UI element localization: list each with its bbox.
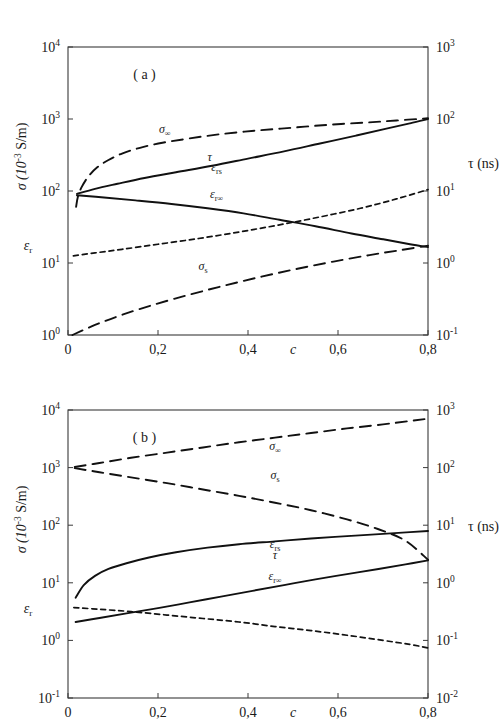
right-axis-tick-label: 10-2 <box>436 689 458 706</box>
curve-label-epsilon-r-infinity: εr∞ <box>210 187 223 203</box>
left-axis-tick-label: 10-1 <box>38 689 60 706</box>
left-tick-exponent: -1 <box>52 689 60 699</box>
x-axis-tick-label: 0,8 <box>419 342 437 357</box>
left-axis-tick-label: 101 <box>41 574 60 591</box>
right-axis-tick-label: 10-1 <box>436 631 458 648</box>
left-tick-exponent: 0 <box>55 326 60 336</box>
left-axis-tick-label: 101 <box>41 254 60 271</box>
x-axis-tick-label: 0 <box>65 342 72 357</box>
curve-label-subscript: ∞ <box>165 129 171 138</box>
right-axis-title-tau: τ (ns) <box>468 519 499 535</box>
left-axis-tick-label: 103 <box>41 110 60 127</box>
panel-tag: ( a ) <box>133 67 156 83</box>
sigma-unit: S/m) <box>14 122 30 153</box>
left-tick-exponent: 4 <box>55 401 60 411</box>
right-axis-tick-label: 103 <box>436 401 455 418</box>
right-tick-exponent: 3 <box>450 38 455 48</box>
left-axis-tick-label: 104 <box>41 401 60 418</box>
right-tick-exponent: 2 <box>450 459 455 469</box>
right-axis-tick-label: 102 <box>436 459 455 476</box>
right-tick-exponent: -1 <box>450 326 458 336</box>
right-tick-exponent: 0 <box>450 574 455 584</box>
right-tick-exponent: 3 <box>450 401 455 411</box>
left-tick-exponent: 1 <box>55 254 60 264</box>
x-axis-title: c <box>290 342 297 357</box>
curve-sigma-infinity <box>75 419 428 467</box>
x-axis-tick-label: 0 <box>65 705 72 720</box>
curve-label-subscript: ∞ <box>275 446 281 455</box>
right-axis-tick-label: 101 <box>436 182 455 199</box>
curve-label-epsilon-rs: εrs <box>211 160 222 176</box>
right-tick-exponent: -1 <box>450 631 458 641</box>
left-axis-tick-label: 100 <box>41 631 60 648</box>
sigma-symbol: σ (10 <box>14 524 30 553</box>
curve-label-symbol: τ <box>273 548 278 562</box>
chart-panel-b: 10-110010110210310410-210-11001011021030… <box>0 363 503 726</box>
curve-label-subscript: s <box>276 475 279 484</box>
x-axis-tick-label: 0,8 <box>419 705 437 720</box>
left-axis-title-epsilon: εr <box>24 601 33 618</box>
curve-epsilon-r-infinity <box>76 560 428 622</box>
left-axis-title-sigma: σ (10-3 S/m) <box>13 485 30 553</box>
right-axis-tick-label: 100 <box>436 254 455 271</box>
right-tick-exponent: 2 <box>450 110 455 120</box>
curve-sigma-s <box>73 246 429 335</box>
right-axis-tick-label: 10-1 <box>436 326 458 343</box>
left-axis-tick-label: 100 <box>41 326 60 343</box>
left-axis-tick-label: 102 <box>41 182 60 199</box>
plot-a: 10010110210310410-110010110210300,20,40,… <box>0 0 503 363</box>
left-axis-title-sigma: σ (10-3 S/m) <box>13 122 30 190</box>
figure-container: 10010110210310410-110010110210300,20,40,… <box>0 0 503 726</box>
curve-label-subscript: rs <box>216 167 222 176</box>
curve-label-subscript: r∞ <box>215 194 224 203</box>
left-axis-tick-label: 103 <box>41 459 60 476</box>
curve-label-sigma-infinity: σ∞ <box>159 122 171 138</box>
sigma-unit: S/m) <box>14 485 30 516</box>
panel-tag: ( b ) <box>133 430 157 446</box>
curve-label-tau: τ <box>208 150 213 164</box>
right-tick-exponent: 1 <box>450 182 455 192</box>
curve-label-sigma-s: σs <box>270 468 279 484</box>
curve-epsilon-rs <box>76 531 428 598</box>
x-axis-tick-label: 0,2 <box>149 342 167 357</box>
right-tick-exponent: -2 <box>450 689 458 699</box>
left-tick-exponent: 3 <box>55 110 60 120</box>
right-tick-exponent: 0 <box>450 254 455 264</box>
right-axis-tick-label: 100 <box>436 574 455 591</box>
left-tick-exponent: 1 <box>55 574 60 584</box>
curve-label-symbol: τ <box>208 150 213 164</box>
plot-b: 10-110010110210310410-210-11001011021030… <box>0 363 503 726</box>
x-axis-tick-label: 0,6 <box>329 342 347 357</box>
curve-label-tau: τ <box>273 548 278 562</box>
left-tick-exponent: 0 <box>55 631 60 641</box>
plot-frame <box>68 410 428 698</box>
right-axis-title-tau: τ (ns) <box>468 156 499 172</box>
curve-label-sigma-s: σs <box>198 259 207 275</box>
left-tick-exponent: 2 <box>55 516 60 526</box>
left-tick-exponent: 2 <box>55 182 60 192</box>
right-axis-tick-label: 101 <box>436 516 455 533</box>
x-axis-tick-label: 0,4 <box>239 342 257 357</box>
right-tick-exponent: 1 <box>450 516 455 526</box>
right-axis-tick-label: 102 <box>436 110 455 127</box>
x-axis-tick-label: 0,4 <box>239 705 257 720</box>
right-axis-tick-label: 103 <box>436 38 455 55</box>
x-axis-tick-label: 0,2 <box>149 705 167 720</box>
curve-label-epsilon-r-infinity: εr∞ <box>268 569 281 585</box>
left-axis-tick-label: 104 <box>41 38 60 55</box>
left-tick-exponent: 4 <box>55 38 60 48</box>
left-axis-tick-label: 102 <box>41 516 60 533</box>
curve-label-subscript: r∞ <box>273 576 282 585</box>
epsilon-subscript: r <box>29 608 32 618</box>
x-axis-title: c <box>290 705 297 720</box>
curve-epsilon-r-infinity <box>77 195 428 247</box>
epsilon-subscript: r <box>29 245 32 255</box>
plot-frame <box>68 47 428 335</box>
curve-label-subscript: s <box>204 266 207 275</box>
left-tick-exponent: 3 <box>55 459 60 469</box>
curve-sigma-s <box>75 468 428 560</box>
left-axis-title-epsilon: εr <box>24 238 33 255</box>
sigma-symbol: σ (10 <box>14 161 30 190</box>
x-axis-tick-label: 0,6 <box>329 705 347 720</box>
chart-panel-a: 10010110210310410-110010110210300,20,40,… <box>0 0 503 363</box>
